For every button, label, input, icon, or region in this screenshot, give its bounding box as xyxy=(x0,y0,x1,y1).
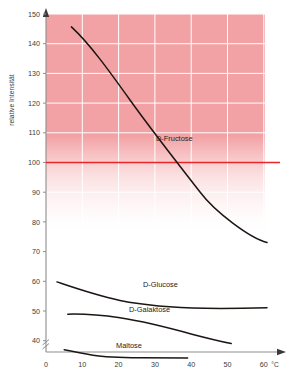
x-axis-unit-label: °C xyxy=(271,361,279,368)
y-tick-label: 120 xyxy=(28,99,40,108)
y-tick-label: 40 xyxy=(32,336,40,345)
x-tick-label: 40 xyxy=(187,360,195,369)
y-tick-label: 140 xyxy=(28,39,40,48)
series-label-maltose: Maltose xyxy=(116,341,142,350)
series-label-d-galaktose: D-Galaktose xyxy=(129,305,170,314)
shaded-region xyxy=(46,14,265,236)
y-tick-label: 50 xyxy=(32,307,40,316)
y-tick-label: 100 xyxy=(28,158,40,167)
series-label-d-fructose: D-Fructose xyxy=(156,134,193,143)
chart-container: 150 140 130 120 110 100 90 80 70 60 50 4… xyxy=(0,0,293,377)
x-tick-label: 50 xyxy=(224,360,232,369)
y-axis-title: relative Intensität xyxy=(8,74,15,125)
y-tick-label: 130 xyxy=(28,69,40,78)
y-tick-label: 80 xyxy=(32,218,40,227)
x-tick-label: 0 xyxy=(44,360,48,369)
x-tick-label: 30 xyxy=(151,360,159,369)
y-tick-label: 90 xyxy=(32,188,40,197)
y-tick-label: 150 xyxy=(28,10,40,19)
y-tick-label: 60 xyxy=(32,277,40,286)
line-chart: 150 140 130 120 110 100 90 80 70 60 50 4… xyxy=(0,0,293,377)
x-tick-label: 60 xyxy=(260,360,268,369)
y-tick-label: 70 xyxy=(32,247,40,256)
y-tick-label: 110 xyxy=(29,128,40,137)
x-tick-label: 20 xyxy=(115,360,123,369)
x-tick-label: 10 xyxy=(78,360,86,369)
series-label-d-glucose: D-Glucose xyxy=(143,280,178,289)
